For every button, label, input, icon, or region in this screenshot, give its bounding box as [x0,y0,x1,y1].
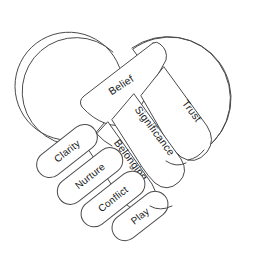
handshake-heart-diagram: Belief Trust Significance Belonging [0,0,266,255]
handshake-diagram-canvas: Belief Trust Significance Belonging [0,0,266,255]
